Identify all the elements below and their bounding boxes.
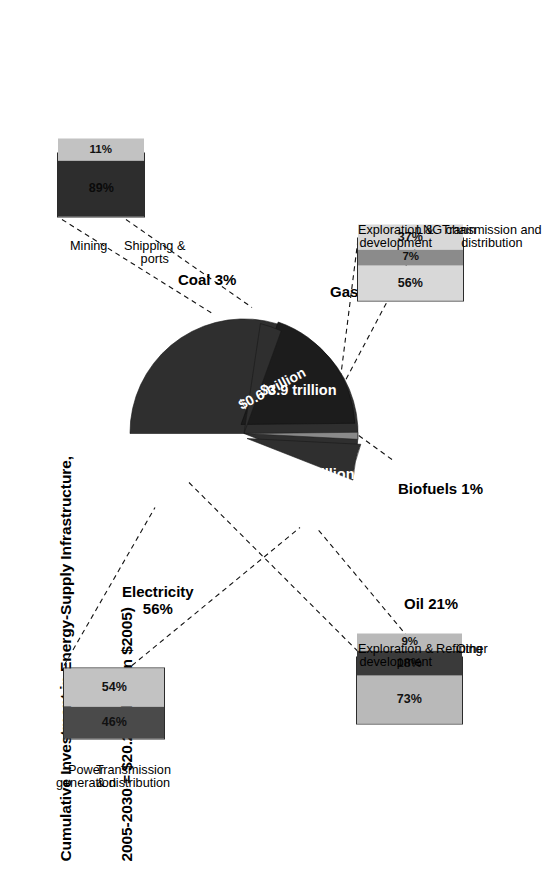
bar-label-gas-transmission: Transmission and distribution [442, 223, 542, 250]
bar-segment-power-generation-pct: 46% [101, 716, 126, 729]
pie-svg [128, 317, 360, 549]
bar-coal: 89% 11% [57, 152, 145, 217]
bar-label-oil-other: Other [456, 642, 488, 655]
bar-segment-transmission-distribution: 54% [64, 668, 164, 706]
bar-segment-mining-pct: 89% [88, 182, 113, 195]
bar-segment-mining: 89% [58, 160, 144, 216]
bar-segment-gas-lng-pct: 7% [402, 251, 419, 263]
pie-value-oil: $4.3 trillion [278, 465, 355, 481]
pie-callout-electricity: Electricity 56% [122, 583, 194, 617]
bar-segment-power-generation: 46% [64, 706, 164, 738]
pie-value-gas: $3.9 trillion [260, 381, 337, 397]
bar-segment-shipping-ports-pct: 11% [90, 143, 112, 155]
pie-callout-coal: Coal 3% [178, 271, 236, 288]
bar-segment-transmission-distribution-pct: 54% [101, 681, 126, 694]
bar-label-transmission-distribution: Transmission & distribution [96, 763, 171, 790]
bar-segment-oil-exploration-pct: 73% [397, 693, 422, 706]
pie-chart: $11.3 trillion $0.6 trillion $3.9 trilli… [128, 317, 360, 549]
bar-segment-gas-lng: 7% [358, 249, 463, 266]
bar-segment-gas-exploration: 56% [358, 265, 463, 300]
leader-line-coal-a [62, 219, 214, 314]
chart-title-line1: Cumulative Investment in Energy-Supply I… [56, 456, 76, 861]
bar-electricity: 46% 54% [63, 667, 165, 739]
pie-value-electricity: $11.3 trillion [172, 503, 218, 537]
pie-callout-oil: Oil 21% [404, 595, 458, 612]
bar-label-mining: Mining [70, 239, 107, 252]
pie-callout-biofuels: Biofuels 1% [398, 480, 483, 497]
bar-label-oil-exploration: Exploration & development [358, 642, 433, 669]
bar-segment-shipping-ports: 11% [58, 138, 144, 160]
bar-segment-gas-exploration-pct: 56% [398, 276, 423, 289]
bar-segment-oil-exploration: 73% [357, 675, 462, 723]
bar-label-shipping-ports: Shipping & ports [124, 239, 185, 266]
